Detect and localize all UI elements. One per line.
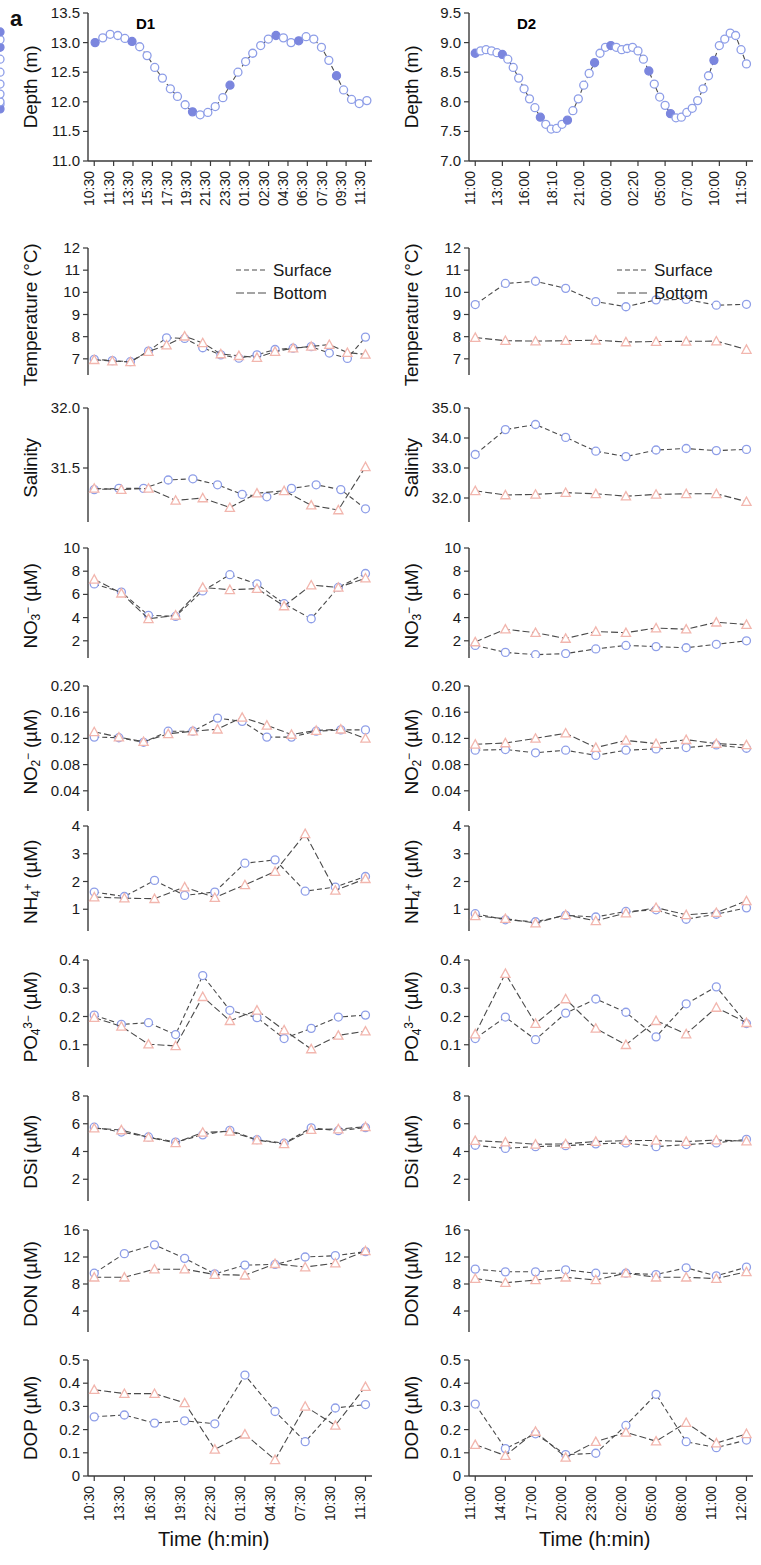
svg-text:34.0: 34.0: [432, 429, 461, 446]
svg-text:0: 0: [453, 1198, 461, 1201]
series-line-surface: [94, 337, 365, 362]
y-axis-label-no2-D1: NO2− (µM): [20, 709, 43, 794]
x-tick-label: 05:00: [643, 1486, 659, 1521]
svg-text:13.0: 13.0: [51, 34, 80, 51]
svg-text:0.3: 0.3: [440, 1397, 461, 1414]
series-line-bottom: [475, 622, 746, 642]
y-axis-label-no3-D1: NO3− (µM): [20, 563, 43, 648]
x-tick-label: 07:30: [292, 1486, 308, 1521]
svg-text:2: 2: [453, 873, 461, 890]
x-tick-label: 02:30: [256, 171, 272, 206]
svg-text:8: 8: [453, 1275, 461, 1292]
panel-title-D1: D1: [136, 15, 155, 32]
y-axis-label-nh4-D2: NH4+ (µM): [401, 839, 424, 923]
x-tick-label: 22:30: [202, 1486, 218, 1521]
svg-text:4: 4: [453, 818, 461, 834]
svg-text:0.1: 0.1: [440, 1444, 461, 1461]
svg-text:33.0: 33.0: [432, 459, 461, 476]
x-tick-label: 12:00: [733, 1486, 749, 1521]
svg-text:4: 4: [453, 1143, 461, 1160]
series-line-surface: [94, 574, 365, 619]
svg-text:0: 0: [453, 928, 461, 931]
svg-text:6: 6: [72, 1115, 80, 1132]
svg-text:11: 11: [445, 261, 461, 278]
svg-text:4: 4: [72, 609, 80, 626]
y-axis-label-po4-D2: PO43− (µM): [401, 971, 424, 1062]
chart-panel-no3-D1: 0246810NO3− (µM): [0, 540, 381, 658]
x-tick-label: 17:30: [159, 171, 175, 206]
series-line-surface: [475, 641, 746, 655]
svg-text:8: 8: [72, 328, 80, 345]
chart-panel-dsi-D2: 02468DSi (µM): [381, 1088, 761, 1201]
svg-text:0.16: 0.16: [432, 703, 461, 720]
svg-text:6: 6: [453, 1115, 461, 1132]
svg-text:0: 0: [72, 1467, 80, 1484]
y-axis-label-no2-D2: NO2− (µM): [401, 709, 424, 794]
y-axis-label-don-D2: DON (µM): [401, 1241, 423, 1326]
x-tick-label: 13:00: [489, 171, 505, 206]
svg-text:9: 9: [72, 306, 80, 323]
x-tick-label: 01:30: [232, 1486, 248, 1521]
svg-text:9.5: 9.5: [440, 5, 461, 21]
svg-text:1: 1: [453, 900, 461, 917]
plot-nh4-D2: 01234: [381, 818, 761, 931]
svg-text:0.3: 0.3: [59, 1397, 80, 1414]
series-line-bottom: [94, 834, 365, 899]
svg-text:13.5: 13.5: [51, 5, 80, 21]
svg-text:12: 12: [63, 240, 80, 256]
x-axis-title-D1: Time (h:min): [158, 1528, 269, 1551]
series-line-bottom: [475, 1140, 746, 1144]
svg-text:32.0: 32.0: [51, 400, 80, 416]
series-line-bottom: [475, 901, 746, 923]
svg-text:6: 6: [453, 585, 461, 602]
svg-text:0.04: 0.04: [51, 782, 80, 799]
svg-text:7: 7: [72, 350, 80, 367]
svg-text:9.0: 9.0: [440, 34, 461, 51]
svg-text:0.04: 0.04: [432, 782, 461, 799]
x-tick-label: 21:00: [571, 171, 587, 206]
legend-label-bottom: Bottom: [273, 284, 327, 303]
svg-text:0.08: 0.08: [51, 756, 80, 773]
svg-text:4: 4: [453, 1302, 461, 1319]
plot-dop-D1: 00.10.20.30.40.510:3013:3016:3019:3022:3…: [0, 1352, 381, 1532]
svg-text:1: 1: [72, 900, 80, 917]
svg-text:2: 2: [72, 1170, 80, 1187]
svg-text:12: 12: [444, 1248, 461, 1265]
x-tick-label: 13:30: [111, 1486, 127, 1521]
chart-panel-no3-D2: 0246810NO3− (µM): [381, 540, 761, 658]
series-line-surface: [94, 1375, 365, 1442]
svg-text:8.5: 8.5: [440, 63, 461, 80]
svg-text:8: 8: [453, 1088, 461, 1104]
x-tick-label: 09:30: [333, 171, 349, 206]
svg-text:12.0: 12.0: [51, 93, 80, 110]
x-tick-label: 10:30: [81, 1486, 97, 1521]
x-tick-label: 13:30: [120, 171, 136, 206]
svg-text:0.0: 0.0: [59, 1064, 80, 1067]
chart-panel-no2-D2: 0.000.040.080.120.160.20NO2− (µM): [381, 678, 761, 811]
svg-text:4: 4: [72, 1302, 80, 1319]
svg-text:0.4: 0.4: [440, 952, 461, 968]
svg-text:0.4: 0.4: [59, 952, 80, 968]
chart-panel-temperature-D1: 6789101112SurfaceBottomTemperature (°C): [0, 240, 381, 375]
chart-panel-no2-D1: 0.000.040.080.120.160.20NO2− (µM): [0, 678, 381, 811]
x-tick-label: 16:00: [516, 171, 532, 206]
x-tick-label: 23:00: [583, 1486, 599, 1521]
chart-panel-don-D2: 0481216DON (µM): [381, 1222, 761, 1332]
x-tick-label: 07:00: [679, 171, 695, 206]
chart-panel-nh4-D2: 01234NH4+ (µM): [381, 818, 761, 931]
x-tick-label: 05:00: [652, 171, 668, 206]
svg-text:11.5: 11.5: [52, 122, 80, 139]
svg-text:0: 0: [453, 1329, 461, 1332]
svg-text:0.2: 0.2: [440, 1008, 461, 1025]
chart-panel-temperature-D2: 6789101112SurfaceBottomTemperature (°C): [381, 240, 761, 375]
svg-text:0.5: 0.5: [440, 1352, 461, 1368]
svg-text:12: 12: [444, 240, 461, 256]
chart-panel-depth-D2: 7.07.58.08.59.09.511:0013:0016:0018:1021…: [381, 5, 761, 217]
x-tick-label: 01:30: [236, 171, 252, 206]
svg-text:0.3: 0.3: [440, 979, 461, 996]
legend-label-surface: Surface: [654, 261, 713, 280]
svg-text:0.20: 0.20: [51, 678, 80, 694]
series-line-bottom: [475, 338, 746, 350]
chart-panel-nh4-D1: 01234NH4+ (µM): [0, 818, 381, 931]
y-axis-label-temperature-D1: Temperature (°C): [20, 243, 42, 386]
